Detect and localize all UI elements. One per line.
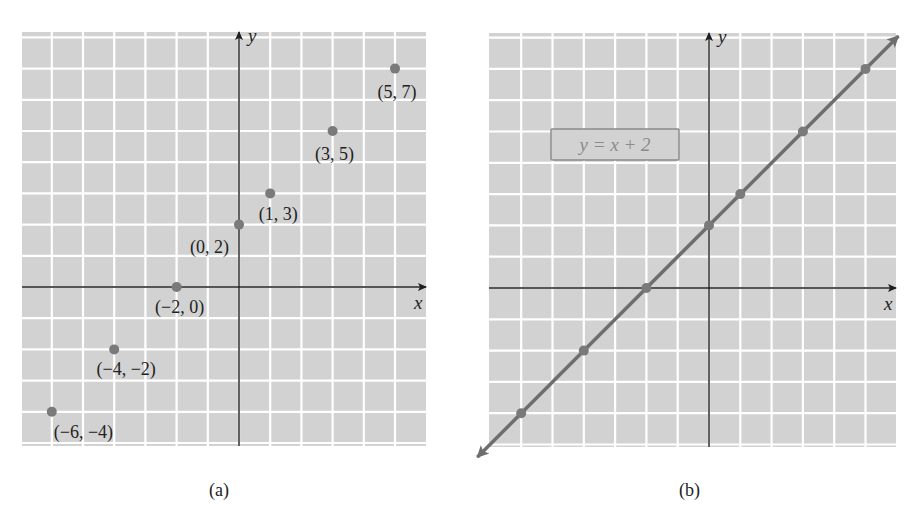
caption-b: (b) (679, 480, 700, 501)
data-point (234, 220, 244, 230)
data-point (328, 126, 338, 136)
panel-a-scatter-plot: xy(−6, −4)(−4, −2)(−2, 0)(0, 2)(1, 3)(3,… (22, 25, 426, 446)
data-point (109, 344, 119, 354)
figure-canvas: xy(−6, −4)(−4, −2)(−2, 0)(0, 2)(1, 3)(3,… (0, 0, 917, 530)
x-axis-label: x (883, 293, 893, 314)
data-point (265, 188, 275, 198)
data-point (861, 64, 871, 74)
y-axis-label: y (716, 26, 727, 47)
data-point (516, 408, 526, 418)
point-label: (0, 2) (190, 237, 229, 258)
data-point (798, 127, 808, 137)
data-point (579, 346, 589, 356)
panel-b-line-plot: xyy = x + 2 (477, 26, 898, 457)
point-label: (1, 3) (259, 204, 298, 225)
data-point (390, 64, 400, 74)
equation-label: y = x + 2 (577, 134, 651, 155)
point-label: (−4, −2) (97, 359, 156, 380)
y-axis-label: y (246, 25, 257, 46)
data-point (735, 189, 745, 199)
x-axis-label: x (413, 292, 423, 313)
caption-a: (a) (209, 480, 229, 501)
data-point (47, 407, 57, 417)
point-label: (5, 7) (378, 82, 417, 103)
data-point (172, 282, 182, 292)
point-label: (−6, −4) (54, 422, 113, 443)
point-label: (3, 5) (315, 144, 354, 165)
point-label: (−2, 0) (155, 297, 204, 318)
data-point (704, 220, 714, 230)
data-point (641, 283, 651, 293)
